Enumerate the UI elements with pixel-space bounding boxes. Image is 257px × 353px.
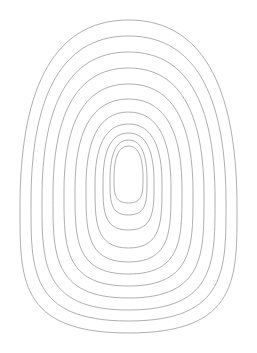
egg-outline-figure: [0, 0, 257, 353]
canvas-background: [0, 0, 257, 353]
drawing-canvas: [0, 0, 257, 353]
